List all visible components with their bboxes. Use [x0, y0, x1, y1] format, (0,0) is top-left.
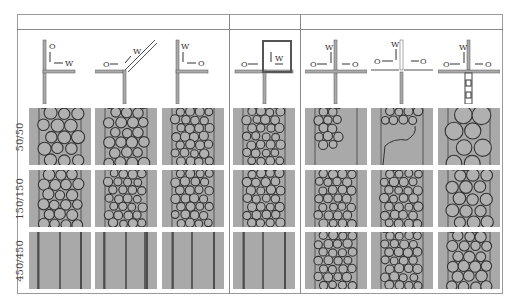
group-divider-1	[229, 14, 230, 294]
micrograph-r1-c6	[371, 108, 433, 165]
svg-text:W: W	[391, 40, 400, 49]
micrograph-r2-c5	[305, 170, 367, 227]
schematic-col1: O W	[29, 34, 91, 104]
svg-text:W: W	[181, 42, 190, 51]
schematic-col4: O W	[233, 34, 297, 104]
schematic-col7: W O O	[438, 34, 500, 104]
schematic-col6: W O O	[371, 34, 433, 104]
micrograph-r1-c4	[233, 108, 295, 165]
row-label-3: 450/450	[14, 232, 28, 290]
micrograph-r2-c6	[371, 170, 433, 227]
header-divider	[17, 29, 503, 30]
micrograph-r3-c6	[371, 232, 433, 289]
svg-text:O: O	[241, 60, 248, 69]
svg-text:O: O	[103, 60, 110, 69]
svg-text:O: O	[49, 42, 56, 51]
svg-text:O: O	[420, 57, 427, 66]
micrograph-r3-c2	[95, 232, 157, 289]
svg-text:W: W	[133, 47, 142, 56]
svg-text:O: O	[310, 60, 317, 69]
micrograph-r3-c4	[233, 232, 295, 289]
micrograph-r2-c7	[438, 170, 500, 227]
row-label-1: 50/50	[14, 108, 28, 166]
schematic-col3: W O	[162, 34, 224, 104]
micrograph-r3-c3	[162, 232, 224, 289]
svg-text:O: O	[352, 60, 359, 69]
svg-text:O: O	[443, 60, 450, 69]
micrograph-r2-c4	[233, 170, 295, 227]
group-divider-2	[300, 14, 301, 294]
micrograph-r2-c1	[29, 170, 91, 227]
schematic-col2: O W	[95, 34, 157, 104]
svg-text:O: O	[374, 57, 381, 66]
micrograph-r1-c3	[162, 108, 224, 165]
svg-text:W: W	[275, 54, 284, 63]
micrograph-r1-c5	[305, 108, 367, 165]
micrograph-r2-c2	[95, 170, 157, 227]
svg-text:O: O	[485, 60, 492, 69]
svg-text:W: W	[65, 59, 74, 68]
micrograph-r3-c7	[438, 232, 500, 289]
micrograph-r2-c3	[162, 170, 224, 227]
svg-text:W: W	[459, 43, 468, 52]
svg-text:O: O	[198, 59, 205, 68]
micrograph-r3-c5	[305, 232, 367, 289]
micrograph-r1-c1	[29, 108, 91, 165]
micrograph-r3-c1	[29, 232, 91, 289]
micrograph-r1-c7	[438, 108, 500, 165]
row-label-2: 150/150	[14, 170, 28, 228]
svg-text:W: W	[325, 43, 334, 52]
schematic-col5: W O O	[305, 34, 367, 104]
micrograph-r1-c2	[95, 108, 157, 165]
